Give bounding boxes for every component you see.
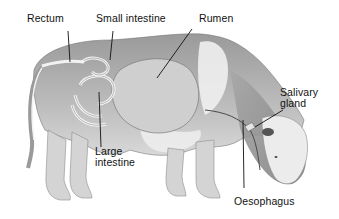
label-large-intestine-line2: intestine xyxy=(95,157,135,168)
label-rumen: Rumen xyxy=(199,13,233,24)
label-salivary-gland: Salivary gland xyxy=(280,87,318,109)
label-salivary-gland-line2: gland xyxy=(280,98,318,109)
cow-digestion-diagram: Rectum Small intestine Rumen Salivary gl… xyxy=(0,0,339,219)
label-large-intestine: Large intestine xyxy=(95,146,135,168)
cow-illustration xyxy=(0,0,339,219)
label-oesophagus: Oesophagus xyxy=(234,196,295,207)
label-rectum: Rectum xyxy=(27,13,64,24)
label-small-intestine: Small intestine xyxy=(96,13,166,24)
